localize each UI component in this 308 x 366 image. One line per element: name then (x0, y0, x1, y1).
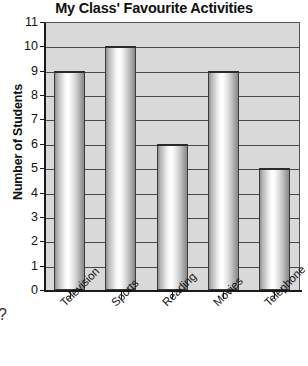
y-axis-tick-label: 1 (8, 260, 38, 272)
bar (208, 71, 239, 290)
y-axis-tick-label: 0 (8, 284, 38, 296)
y-axis-tick-label: 3 (8, 211, 38, 223)
y-axis-tick-label: 11 (8, 16, 38, 28)
y-axis-tick-label: 5 (8, 162, 38, 174)
y-axis-tick-label: 6 (8, 138, 38, 150)
bar (259, 168, 290, 290)
clipped-edge-glyph: ? (0, 306, 7, 324)
y-axis-tick-label: 7 (8, 113, 38, 125)
y-axis-tick-label: 2 (8, 235, 38, 247)
bar-chart: My Class' Favourite Activities Number of… (0, 0, 308, 366)
y-axis-tick-label: 4 (8, 187, 38, 199)
bar (54, 71, 85, 290)
bars-group (44, 22, 300, 290)
bar (157, 144, 188, 290)
bar (105, 46, 136, 290)
y-axis-tick-label: 9 (8, 65, 38, 77)
y-axis-tick-label: 8 (8, 89, 38, 101)
chart-title: My Class' Favourite Activities (0, 0, 308, 16)
y-axis-tick-label: 10 (8, 40, 38, 52)
